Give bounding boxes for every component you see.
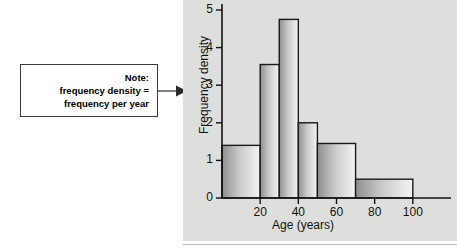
histogram-bar [260,65,279,198]
y-axis-ticks [216,10,222,198]
y-axis-tick-label: 0 [197,190,213,204]
note-callout-box: Note: frequency density = frequency per … [20,64,158,117]
histogram-bar [279,19,298,198]
y-axis-tick-label: 5 [197,2,213,16]
x-axis-tick-label: 100 [400,205,426,219]
note-line-title: Note: [125,71,149,84]
histogram-bar [222,145,260,198]
histogram-bar [317,143,355,198]
note-line-definition: frequency density = [60,84,150,97]
panel-underline [183,244,457,245]
x-axis-tick-label: 40 [285,205,311,219]
histogram-bars [222,19,413,198]
histogram-panel: 012345 20406080100 Frequency density Age… [183,0,457,241]
histogram-bar [298,123,317,198]
x-axis-title: Age (years) [183,218,423,232]
x-axis-ticks [260,198,413,204]
histogram-bar [356,179,413,198]
x-axis-tick-label: 80 [362,205,388,219]
x-axis-tick-label: 60 [324,205,350,219]
note-line-definition-cont: frequency per year [64,97,149,110]
y-axis-title: Frequency density [197,20,211,150]
y-axis-tick-label: 1 [197,152,213,166]
x-axis-tick-label: 20 [247,205,273,219]
